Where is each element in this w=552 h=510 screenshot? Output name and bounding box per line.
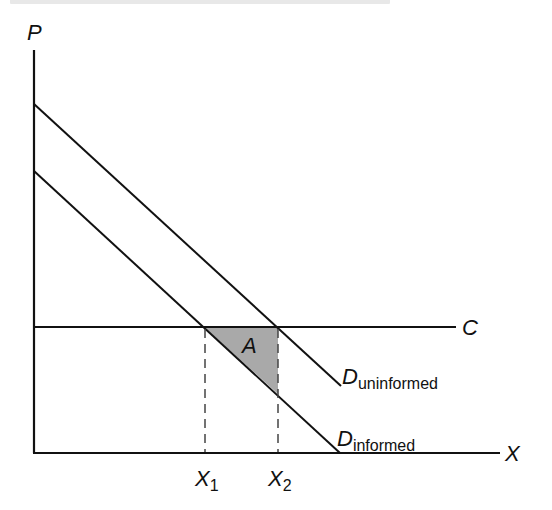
demand-uninformed-label-main: D	[342, 364, 358, 389]
cost-label: C	[462, 317, 478, 339]
diagram-canvas	[0, 0, 552, 510]
demand-uninformed-label-sub: uninformed	[358, 375, 438, 392]
demand-informed-label-sub: informed	[353, 437, 415, 454]
tick-x2-main: X	[268, 466, 283, 491]
x-axis-label: X	[505, 443, 520, 465]
y-axis-label: P	[27, 22, 42, 44]
demand-informed-label: Dinformed	[337, 428, 415, 454]
tick-x1-sub: 1	[210, 477, 219, 494]
tick-x2-sub: 2	[283, 477, 292, 494]
tick-x1-label: X1	[195, 468, 219, 494]
demand-uninformed-label: Duninformed	[342, 366, 438, 392]
demand-informed-label-main: D	[337, 426, 353, 451]
region-a-label: A	[242, 335, 257, 357]
tick-x2-label: X2	[268, 468, 292, 494]
demand-informed-line	[34, 171, 340, 453]
tick-x1-main: X	[195, 466, 210, 491]
demand-uninformed-line	[34, 104, 341, 386]
